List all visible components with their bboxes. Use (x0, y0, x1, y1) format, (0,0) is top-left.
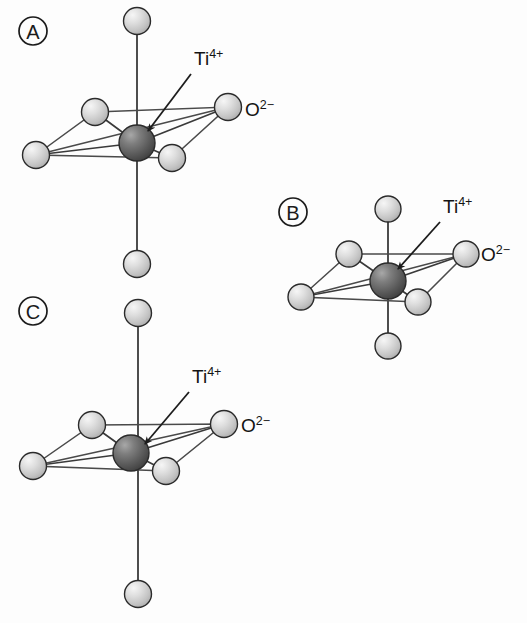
panel-c-oxygen-apex-top (125, 300, 152, 327)
panel-a-o-charge: 2− (260, 98, 274, 112)
panel-c-label: C (26, 301, 40, 323)
panel-a-oxygen-back-right (215, 94, 242, 121)
panel-a-ti-charge: 4+ (209, 47, 223, 61)
panel-b-titanium (370, 263, 406, 299)
panel-a-oxygen-front-right (159, 145, 186, 172)
octahedra-figure: A Ti4+ O2− B (0, 0, 527, 623)
panel-b-oxygen-back-left (336, 241, 362, 267)
panel-a-o-symbol: O (245, 99, 260, 120)
panel-c-oxygen-front-right (153, 458, 180, 485)
panel-b-ti-charge: 4+ (458, 195, 472, 209)
panel-a-oxygen-back-left (82, 99, 109, 126)
figure-background (0, 0, 527, 623)
panel-a-titanium (119, 125, 155, 161)
panel-b-oxygen-back-right (453, 241, 479, 267)
panel-c-o-symbol: O (241, 415, 256, 436)
panel-b-oxygen-apex-bottom (375, 333, 401, 359)
panel-c-oxygen-apex-bottom (125, 581, 152, 608)
panel-c-oxygen-back-left (79, 412, 106, 439)
panel-c-ti-charge: 4+ (207, 365, 221, 379)
panel-b-oxygen-apex-top (375, 196, 401, 222)
panel-c-oxygen-back-right (211, 411, 238, 438)
panel-a-oxygen-apex-top (124, 8, 151, 35)
panel-c-oxygen-front-left (20, 453, 47, 480)
panel-a-oxygen-front-left (23, 142, 50, 169)
panel-c-titanium (113, 435, 149, 471)
panel-c-ti-symbol: Ti (192, 366, 207, 387)
panel-a-label: A (26, 21, 40, 43)
panel-b-ti-symbol: Ti (443, 196, 458, 217)
panel-b-oxygen-front-left (288, 284, 314, 310)
panel-b-label: B (286, 202, 299, 224)
panel-c-o-charge: 2− (256, 414, 270, 428)
panel-b-o-charge: 2− (496, 243, 510, 257)
panel-a-ti-symbol: Ti (194, 48, 209, 69)
panel-b-o-symbol: O (481, 244, 496, 265)
panel-b-oxygen-front-right (405, 289, 431, 315)
panel-a-oxygen-apex-bottom (124, 251, 151, 278)
